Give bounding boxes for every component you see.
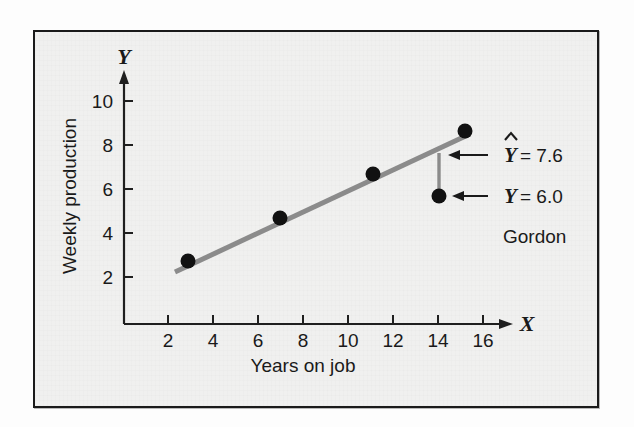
observed-value-arrow bbox=[452, 191, 488, 201]
case-name-label: Gordon bbox=[503, 226, 566, 247]
x-axis-ticks bbox=[168, 315, 483, 324]
observed-value-text: = 6.0 bbox=[520, 186, 563, 207]
y-tick-label-4: 4 bbox=[102, 223, 113, 244]
x-tick-label-10: 10 bbox=[337, 330, 358, 351]
y-axis-arrowhead bbox=[119, 70, 129, 84]
x-tick-label-4: 4 bbox=[208, 330, 219, 351]
predicted-value-annotation: Y = 7.6 bbox=[504, 133, 563, 167]
predicted-var-letter: Y bbox=[504, 143, 519, 167]
data-point-gordon bbox=[432, 189, 447, 204]
x-tick-label-2: 2 bbox=[163, 330, 174, 351]
data-point-2 bbox=[273, 211, 288, 226]
x-tick-label-6: 6 bbox=[253, 330, 264, 351]
scatter-plot: 2 4 6 8 10 12 14 16 2 4 6 8 10 Y X Years… bbox=[0, 0, 634, 427]
observed-var-letter: Y bbox=[504, 184, 519, 208]
y-tick-labels: 2 4 6 8 10 bbox=[92, 91, 114, 288]
predicted-value-arrow bbox=[448, 150, 488, 160]
x-tick-label-16: 16 bbox=[472, 330, 493, 351]
y-tick-label-2: 2 bbox=[102, 267, 113, 288]
predicted-value-text: = 7.6 bbox=[520, 145, 563, 166]
y-axis-ticks bbox=[124, 101, 133, 277]
x-tick-labels: 2 4 6 8 10 12 14 16 bbox=[163, 330, 494, 351]
axes-group bbox=[119, 70, 513, 329]
x-axis-letter: X bbox=[519, 311, 536, 336]
x-axis-title: Years on job bbox=[251, 355, 356, 376]
y-tick-label-8: 8 bbox=[102, 135, 113, 156]
regression-line bbox=[175, 134, 470, 272]
y-axis-letter: Y bbox=[117, 44, 133, 69]
observed-value-annotation: Y = 6.0 bbox=[504, 184, 563, 208]
page-background: 2 4 6 8 10 12 14 16 2 4 6 8 10 Y X Years… bbox=[0, 0, 634, 427]
y-axis-title: Weekly production bbox=[59, 118, 80, 274]
y-tick-label-10: 10 bbox=[92, 91, 113, 112]
data-point-3 bbox=[366, 167, 381, 182]
y-hat-caret bbox=[505, 133, 517, 140]
x-axis-arrowhead bbox=[499, 319, 513, 329]
x-tick-label-8: 8 bbox=[298, 330, 309, 351]
y-tick-label-6: 6 bbox=[102, 179, 113, 200]
x-tick-label-12: 12 bbox=[382, 330, 403, 351]
data-point-1 bbox=[181, 254, 196, 269]
x-tick-label-14: 14 bbox=[427, 330, 449, 351]
data-point-5 bbox=[458, 124, 473, 139]
